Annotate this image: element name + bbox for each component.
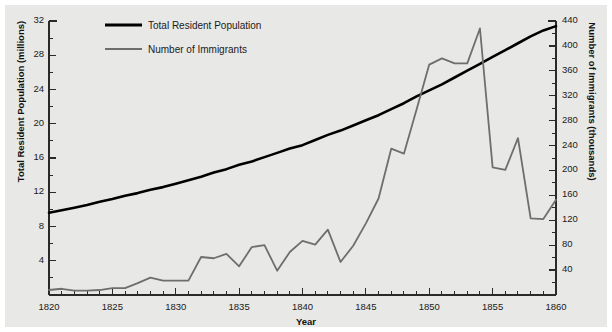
y-tick-label-right: 240 — [562, 139, 578, 150]
y-tick-label-left: 4 — [18, 254, 44, 265]
x-tick-label: 1820 — [29, 301, 69, 312]
x-tick-label: 1855 — [473, 301, 513, 312]
y-axis-label-left: Total Resident Population (millions) — [15, 2, 26, 202]
legend-line-swatches — [105, 25, 142, 49]
y-axis-label-right: Number of Immigrants (thousands) — [587, 2, 598, 202]
y-tick-label-right: 40 — [562, 263, 573, 274]
y-tick-label-right: 440 — [562, 14, 578, 25]
x-axis-label: Year — [0, 316, 612, 327]
axes-group — [49, 21, 556, 295]
legend-label-number-of-immigrants: Number of Immigrants — [148, 44, 247, 55]
x-tick-label: 1860 — [536, 301, 576, 312]
chart-figure: 4812162024283240801201602002402803203604… — [0, 0, 612, 332]
x-tick-label: 1840 — [283, 301, 323, 312]
x-tick-label: 1835 — [219, 301, 259, 312]
x-tick-label: 1850 — [409, 301, 449, 312]
y-tick-label-right: 280 — [562, 114, 578, 125]
legend-label-total-resident-population: Total Resident Population — [148, 20, 261, 31]
series-group — [49, 26, 556, 291]
y-tick-label-right: 360 — [562, 64, 578, 75]
x-tick-label: 1830 — [156, 301, 196, 312]
y-tick-label-right: 80 — [562, 238, 573, 249]
series-line-number-of-immigrants — [49, 28, 556, 290]
y-tick-label-left: 8 — [18, 220, 44, 231]
y-tick-label-right: 320 — [562, 89, 578, 100]
y-tick-label-right: 120 — [562, 213, 578, 224]
x-tick-label: 1825 — [92, 301, 132, 312]
chart-canvas — [0, 0, 612, 332]
series-line-total-resident-population — [49, 26, 556, 213]
y-tick-label-right: 400 — [562, 39, 578, 50]
y-tick-label-right: 160 — [562, 188, 578, 199]
y-tick-label-right: 200 — [562, 163, 578, 174]
x-tick-label: 1845 — [346, 301, 386, 312]
